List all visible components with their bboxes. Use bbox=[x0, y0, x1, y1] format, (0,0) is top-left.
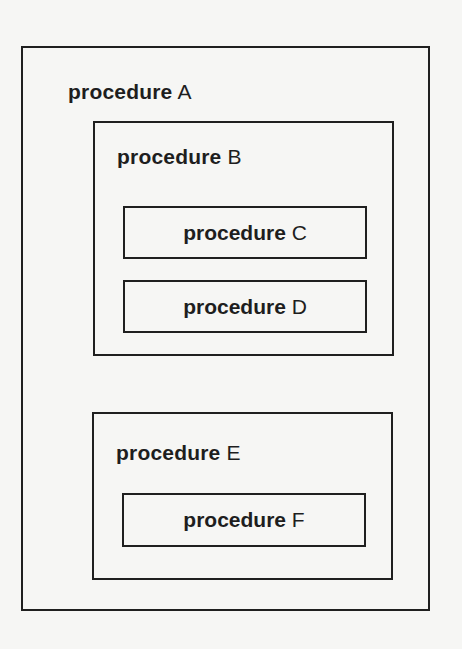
procedure-keyword: procedure bbox=[183, 221, 286, 244]
procedure-name: A bbox=[177, 80, 191, 103]
procedure-keyword: procedure bbox=[183, 295, 286, 318]
procedure-c-box: procedure C bbox=[123, 206, 367, 259]
procedure-b-label: procedure B bbox=[117, 145, 242, 169]
procedure-keyword: procedure bbox=[183, 508, 286, 531]
procedure-f-label: procedure F bbox=[124, 508, 364, 532]
procedure-d-label: procedure D bbox=[125, 295, 365, 319]
procedure-name: F bbox=[292, 508, 305, 531]
procedure-name: D bbox=[292, 295, 307, 318]
procedure-d-box: procedure D bbox=[123, 280, 367, 333]
procedure-e-label: procedure E bbox=[116, 441, 241, 465]
procedure-keyword: procedure bbox=[116, 441, 221, 464]
procedure-keyword: procedure bbox=[117, 145, 222, 168]
procedure-a-label: procedure A bbox=[68, 80, 192, 104]
procedure-name: C bbox=[292, 221, 307, 244]
procedure-c-label: procedure C bbox=[125, 221, 365, 245]
procedure-name: E bbox=[227, 441, 241, 464]
procedure-f-box: procedure F bbox=[122, 493, 366, 547]
procedure-name: B bbox=[228, 145, 242, 168]
procedure-keyword: procedure bbox=[68, 80, 173, 103]
